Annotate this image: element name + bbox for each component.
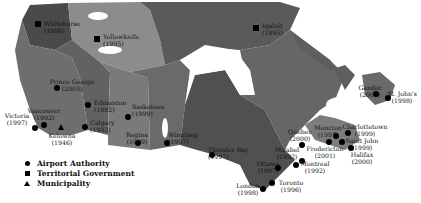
marker-saskatoon[interactable]: [125, 114, 131, 120]
label-montreal: Montreal(1992): [301, 160, 330, 174]
legend-label: Municipality: [37, 179, 90, 188]
marker-yellowknife[interactable]: [94, 36, 100, 42]
marker-kelowna[interactable]: [58, 124, 64, 130]
label-edmonton: Edmonton(1992): [94, 99, 126, 113]
marker-montreal[interactable]: [293, 162, 299, 168]
legend-item-municipality: Municipality: [22, 178, 134, 188]
label-ottawa: Ottawa(1997): [257, 160, 280, 174]
legend-label: Airport Authority: [37, 159, 110, 168]
label-halifax: Halifax(2000): [351, 151, 374, 165]
label-saskatoon: Saskatoon(1999): [132, 103, 164, 117]
marker-edmonton[interactable]: [85, 102, 91, 108]
marker-victoria[interactable]: [32, 125, 38, 131]
label-moncton: Moncton(1997): [314, 124, 342, 138]
circle-icon: [25, 161, 30, 166]
great-bear-lake: [88, 12, 108, 20]
map-legend: Airport Authority Territorial Government…: [22, 158, 134, 188]
label-iqaluit: Iqaluit(1995): [262, 22, 283, 36]
label-vancouver: Vancouver(1992): [28, 107, 61, 121]
label-victoria: Victoria(1997): [5, 112, 30, 126]
label-kelowna: Kelowna(1946): [49, 132, 76, 146]
label-winnipeg: Winnipeg(1997): [168, 131, 198, 145]
label-st-johns: St. John's(1998): [387, 90, 417, 104]
label-prince-george: Prince George(2003): [49, 78, 94, 92]
marker-calgary[interactable]: [82, 124, 88, 130]
marker-saint-john[interactable]: [339, 139, 345, 145]
marker-toronto[interactable]: [269, 180, 275, 186]
legend-item-airport-authority: Airport Authority: [22, 158, 134, 168]
marker-iqaluit[interactable]: [253, 25, 259, 31]
label-london: London(1998): [236, 182, 260, 196]
label-yellowknife: Yellowknife(1995): [103, 33, 139, 47]
label-toronto: Toronto(1996): [279, 179, 303, 193]
label-quebec: Quebec(2000): [288, 128, 312, 142]
label-calgary: Calgary(1992): [90, 119, 115, 133]
marker-vancouver[interactable]: [41, 122, 47, 128]
label-whitehorse: Whitehorse(1996): [44, 20, 80, 34]
label-charlottetown: Charlottetown(1999): [342, 123, 387, 137]
label-fredericton: Fredericton(2001): [306, 145, 343, 159]
triangle-icon: [24, 181, 30, 186]
label-regina: Regina(1999): [126, 131, 148, 145]
marker-whitehorse[interactable]: [35, 21, 41, 27]
legend-label: Territorial Government: [37, 169, 134, 178]
square-icon: [25, 171, 30, 176]
gulf-st-lawrence: [326, 97, 354, 113]
label-thunder-bay: Thunder Bay(1997): [208, 146, 248, 160]
label-mirabel: Mirabel(1992): [275, 146, 300, 160]
great-slave-lake: [98, 46, 122, 54]
marker-quebec[interactable]: [299, 142, 305, 148]
label-gander: Gander(2001): [358, 84, 381, 98]
marker-london[interactable]: [260, 186, 266, 192]
legend-item-territorial-government: Territorial Government: [22, 168, 134, 178]
